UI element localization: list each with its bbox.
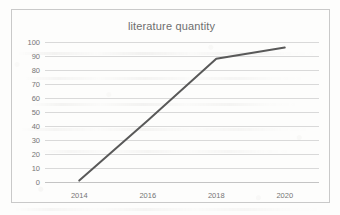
series-line-path xyxy=(79,48,285,181)
data-series-literature-quantity xyxy=(45,42,319,182)
y-axis-tick-label: 100 xyxy=(27,38,40,47)
y-axis-tick-label: 30 xyxy=(32,136,40,145)
y-axis-tick-label: 20 xyxy=(32,150,40,159)
y-axis-tick-label: 90 xyxy=(32,52,40,61)
chart-title: literature quantity xyxy=(12,20,331,32)
y-axis-tick-label: 0 xyxy=(36,178,40,187)
y-axis-tick-label: 10 xyxy=(32,164,40,173)
x-axis-tick-label: 2016 xyxy=(139,191,156,200)
paper-bleed-smudge xyxy=(14,208,326,211)
y-axis-tick-label: 70 xyxy=(32,80,40,89)
gridline xyxy=(45,182,319,183)
y-axis-tick-label: 60 xyxy=(32,94,40,103)
y-axis-tick-label: 50 xyxy=(32,108,40,117)
x-axis-tick-label: 2018 xyxy=(208,191,225,200)
plot-area: 1009080706050403020100 2014201620182020 xyxy=(45,42,319,182)
x-axis-tick-label: 2020 xyxy=(276,191,293,200)
y-axis-tick-label: 80 xyxy=(32,66,40,75)
y-axis-tick-label: 40 xyxy=(32,122,40,131)
chart-container: literature quantity 10090807060504030201… xyxy=(11,9,330,203)
x-axis-tick-label: 2014 xyxy=(71,191,88,200)
